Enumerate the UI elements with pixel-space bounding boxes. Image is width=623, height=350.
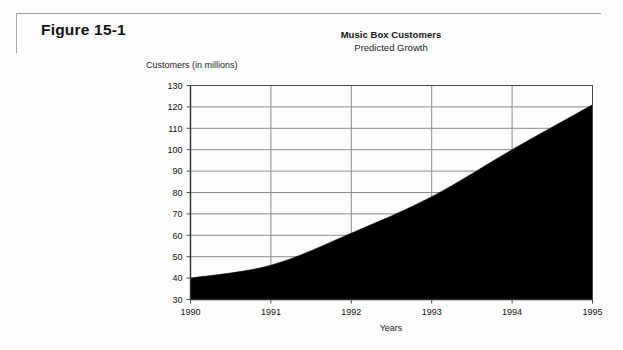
chart-title: Music Box Customers (190, 29, 592, 40)
figure-label: Figure 15-1 (41, 21, 126, 39)
x-tick-label: 1993 (422, 307, 442, 317)
figure-page: Figure 15-1 Music Box Customers Predicte… (0, 0, 623, 350)
page-rule-left (16, 13, 17, 53)
y-tick-label: 110 (168, 124, 182, 134)
y-tick-label: 30 (172, 295, 182, 305)
y-tick-label: 90 (172, 166, 182, 176)
x-tick-label: 1995 (582, 307, 602, 317)
x-axis-title: Years (190, 323, 592, 333)
y-axis-ticks (187, 86, 191, 300)
vertical-gridlines (271, 86, 512, 300)
y-tick-label: 40 (172, 273, 182, 283)
area-path (191, 105, 593, 300)
page-rule-top (16, 13, 601, 14)
y-tick-label: 50 (172, 252, 182, 262)
plot-frame (191, 86, 593, 300)
y-tick-label: 120 (167, 102, 182, 112)
chart-subtitle: Predicted Growth (190, 42, 592, 53)
y-tick-label: 70 (172, 209, 182, 219)
y-axis-tick-labels: 13012011010090807060504030 (167, 81, 182, 305)
plot-border (191, 86, 593, 300)
horizontal-gridlines (191, 107, 593, 278)
y-tick-label: 100 (167, 145, 182, 155)
area-series-fill (191, 105, 593, 300)
x-tick-label: 1994 (502, 307, 522, 317)
y-tick-label: 80 (172, 188, 182, 198)
y-axis-title: Customers (in millions) (146, 60, 238, 70)
x-axis-ticks (191, 300, 593, 304)
x-tick-label: 1992 (341, 307, 361, 317)
y-tick-label: 130 (167, 81, 182, 91)
x-tick-label: 1990 (180, 307, 200, 317)
y-tick-label: 60 (172, 231, 182, 241)
x-tick-label: 1991 (261, 307, 281, 317)
x-axis-tick-labels: 199019911992199319941995 (180, 307, 602, 317)
